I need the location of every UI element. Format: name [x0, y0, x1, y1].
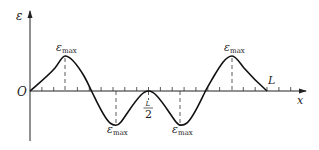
peak-1-label: ε max — [56, 41, 77, 55]
svg-text:L: L — [145, 100, 151, 108]
half-length-label: L 2 — [144, 100, 154, 121]
svg-text:max: max — [62, 47, 77, 55]
svg-text:max: max — [178, 129, 193, 137]
peak-2-label: ε max — [224, 41, 245, 55]
svg-text:2: 2 — [145, 108, 152, 121]
end-length-label: L — [267, 74, 275, 87]
svg-text:max: max — [113, 129, 128, 137]
svg-text:max: max — [230, 47, 245, 55]
x-axis-ticks — [42, 87, 291, 91]
y-axis-label: ε — [16, 9, 22, 23]
origin-label: O — [17, 85, 27, 99]
strain-diagram: ε O x L L 2 ε max ε max ε max ε max — [0, 0, 319, 150]
x-axis-label: x — [297, 94, 304, 107]
